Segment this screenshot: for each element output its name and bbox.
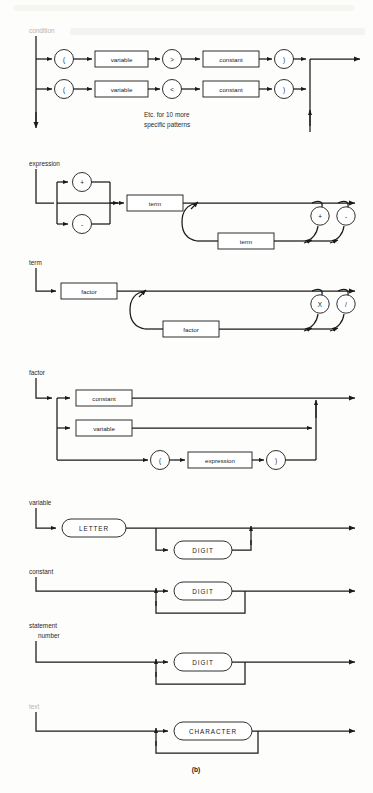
diagram-statement-number: statement number DIGIT: [29, 622, 355, 684]
factor-rparen-text: ): [275, 457, 277, 465]
condition-r1-constant-text: constant: [219, 56, 243, 63]
diagram-label-variable: variable: [29, 499, 52, 506]
expression-op-minus-lower: [331, 226, 344, 241]
factor-variable-text: variable: [93, 425, 115, 432]
diagram-text: text CHARACTER: [29, 703, 355, 753]
condition-r1-gt-text: >: [170, 56, 174, 63]
condition-r2-lt-text: <: [170, 86, 174, 93]
condition-r1-rparen-text: ): [283, 56, 285, 64]
expression-term-text: term: [149, 200, 161, 207]
expression-op-minus-upper: [338, 201, 348, 207]
constant-entry: [36, 577, 168, 591]
expression-loop-left: [182, 203, 197, 241]
condition-r2-variable-text: variable: [111, 86, 133, 93]
diagram-expression: expression + - term: [29, 160, 355, 249]
term-op-times-lower: [305, 314, 318, 329]
expression-minus-text: -: [81, 221, 83, 228]
diagram-label-number: number: [38, 632, 61, 639]
figure-caption: (b): [192, 766, 200, 774]
diagram-label-factor: factor: [29, 369, 46, 376]
term-op-times-upper: [312, 289, 322, 295]
text-entry: [36, 712, 168, 731]
condition-r2-constant-text: constant: [219, 86, 243, 93]
diagram-constant: constant DIGIT: [29, 568, 355, 613]
statement-entry: [36, 641, 168, 662]
diagram-label-condition: condition: [29, 27, 55, 34]
expression-repeat-term-text: term: [240, 238, 252, 245]
diagram-label-constant: constant: [29, 568, 53, 575]
scan-smudge-band: [70, 28, 365, 35]
diagram-label-statement: statement: [29, 622, 57, 629]
syntax-diagram-canvas: condition ( variable > constant ) (: [0, 0, 373, 793]
scan-smudge-top: [14, 5, 354, 11]
expression-op-minus-text: -: [345, 213, 347, 220]
expression-entry: [36, 169, 54, 203]
diagram-label-text: text: [29, 703, 40, 710]
expression-op-plus-upper: [312, 201, 322, 207]
term-loop-left: [130, 291, 145, 329]
term-op-times-text: X: [318, 301, 323, 308]
term-op-div-lower: [331, 314, 344, 329]
factor-entry: [36, 378, 52, 398]
expression-plus-text: +: [80, 179, 84, 186]
statement-digit-text: DIGIT: [192, 659, 214, 666]
variable-letter-text: LETTER: [79, 525, 109, 532]
constant-digit-text: DIGIT: [192, 588, 214, 595]
diagram-label-expression: expression: [29, 160, 60, 168]
variable-loop-return: [232, 540, 251, 550]
condition-r1-variable-text: variable: [111, 56, 133, 63]
term-repeat-factor-text: factor: [183, 326, 198, 333]
diagram-variable: variable LETTER DIGIT: [29, 499, 355, 559]
condition-note-line2: specific patterns: [144, 121, 190, 129]
expression-op-plus-text: +: [318, 213, 322, 220]
expression-op-plus-lower: [305, 226, 318, 241]
condition-r2-rparen-text: ): [283, 86, 285, 94]
diagram-condition: condition ( variable > constant ) (: [29, 27, 360, 132]
variable-digit-text: DIGIT: [192, 547, 214, 554]
diagram-factor: factor constant variable ( expression ): [29, 369, 355, 470]
term-op-div-upper: [338, 289, 348, 295]
term-factor-text: factor: [81, 288, 96, 295]
condition-note-line1: Etc. for 10 more: [144, 111, 190, 118]
factor-expression-text: expression: [205, 457, 235, 464]
term-op-div-text: /: [345, 301, 347, 308]
text-character-text: CHARACTER: [189, 728, 237, 735]
variable-entry: [36, 508, 56, 528]
factor-constant-text: constant: [92, 395, 116, 402]
term-entry: [36, 268, 56, 291]
diagram-term: term factor factor X /: [29, 259, 355, 337]
figure-sheet: condition ( variable > constant ) (: [0, 0, 373, 793]
diagram-label-term: term: [29, 259, 42, 266]
variable-loop-down: [156, 528, 168, 550]
